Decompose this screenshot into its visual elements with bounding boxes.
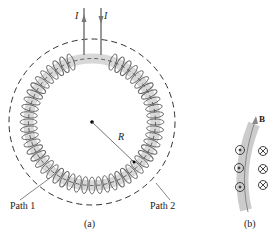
figure-b xyxy=(235,116,268,212)
arrow-down-icon xyxy=(99,16,104,24)
current-label-left: I xyxy=(75,10,78,21)
field-arrow-icon xyxy=(252,116,258,124)
caption-a: (a) xyxy=(84,218,95,229)
radius-label: R xyxy=(118,131,124,142)
field-label: B xyxy=(259,114,265,124)
caption-b: (b) xyxy=(244,218,256,229)
radius-line xyxy=(92,122,134,162)
toroid-diagram: /* placeholder */ xyxy=(0,0,271,239)
arrow-up-icon xyxy=(82,14,87,22)
path-2-label: Path 2 xyxy=(150,200,175,211)
current-label-right: I xyxy=(104,10,107,21)
path-1-label: Path 1 xyxy=(10,200,35,211)
